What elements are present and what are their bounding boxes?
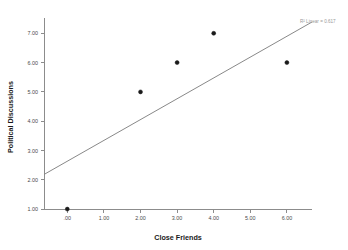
- plot-canvas: 7.00 6.00 5.00 4.00 3.00 2.00 1.00 .00 1…: [0, 0, 348, 250]
- r-squared-annotation: R² Linear = 0.617: [300, 19, 336, 24]
- y-tick-label-1: 1.00: [28, 206, 39, 212]
- scatter-plot-figure: 7.00 6.00 5.00 4.00 3.00 2.00 1.00 .00 1…: [0, 0, 348, 250]
- y-tick-label-4: 4.00: [28, 118, 39, 124]
- data-point: [212, 31, 216, 35]
- data-point: [175, 61, 179, 65]
- y-tick-label-6: 6.00: [28, 60, 39, 66]
- x-tick-label-0: .00: [64, 215, 72, 221]
- data-point: [285, 61, 289, 65]
- data-point: [139, 90, 143, 94]
- x-tick-label-5: 5.00: [245, 215, 256, 221]
- data-point: [65, 207, 69, 211]
- x-tick-label-6: 6.00: [282, 215, 293, 221]
- y-tick-label-5: 5.00: [28, 89, 39, 95]
- x-tick-label-2: 2.00: [135, 215, 146, 221]
- y-tick-label-3: 3.00: [28, 148, 39, 154]
- x-tick-label-3: 3.00: [172, 215, 183, 221]
- x-tick-label-1: 1.00: [99, 215, 110, 221]
- y-axis-title: Political Discussions: [6, 81, 15, 153]
- figure-background: [0, 0, 348, 250]
- y-tick-label-7: 7.00: [28, 30, 39, 36]
- x-tick-label-4: 4.00: [208, 215, 219, 221]
- y-tick-label-2: 2.00: [28, 177, 39, 183]
- x-axis-title: Close Friends: [154, 233, 202, 242]
